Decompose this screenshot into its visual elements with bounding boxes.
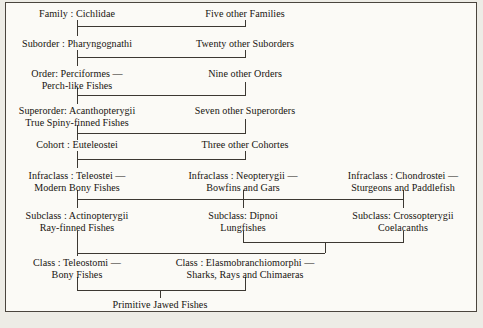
- node-family: Family : Cichlidae: [39, 8, 115, 20]
- node-order: Order: Perciformes — Perch-like Fishes: [31, 68, 122, 91]
- node-cohort-siblings: Three other Cohortes: [202, 139, 289, 151]
- node-class-elasmobranchiomorphi-line2: Sharks, Rays and Chimaeras: [176, 269, 315, 281]
- node-root-line1: Primitive Jawed Fishes: [113, 299, 208, 311]
- node-subclass-crossopterygii-line1: Subclass: Crossopterygii: [352, 210, 453, 222]
- node-suborder-line1: Suborder : Pharyngognathi: [22, 38, 132, 50]
- node-infraclass-neopterygii-line1: Infraclass : Neopterygii —: [188, 170, 297, 182]
- node-order-line2: Perch-like Fishes: [31, 80, 122, 92]
- node-root: Primitive Jawed Fishes: [113, 299, 208, 311]
- node-superorder-line1: Superorder: Acanthopterygii: [19, 105, 136, 117]
- node-cohort: Cohort : Euteleostei: [36, 139, 118, 151]
- node-infraclass-teleostei: Infraclass : Teleostei — Modern Bony Fis…: [28, 170, 125, 193]
- node-subclass-crossopterygii: Subclass: Crossopterygii Coelacanths: [352, 210, 453, 233]
- node-subclass-dipnoi-line2: Lungfishes: [208, 222, 278, 234]
- node-infraclass-teleostei-line2: Modern Bony Fishes: [28, 182, 125, 194]
- node-class-elasmobranchiomorphi-line1: Class : Elasmobranchiomorphi —: [176, 257, 315, 269]
- node-suborder-siblings-line1: Twenty other Suborders: [196, 38, 294, 50]
- node-suborder: Suborder : Pharyngognathi: [22, 38, 132, 50]
- node-infraclass-chondrostei-line1: Infraclass : Chondrostei —: [348, 170, 458, 182]
- node-cohort-siblings-line1: Three other Cohortes: [202, 139, 289, 151]
- node-class-elasmobranchiomorphi: Class : Elasmobranchiomorphi — Sharks, R…: [176, 257, 315, 280]
- node-subclass-actinopterygii: Subclass : Actinopterygii Ray-finned Fis…: [26, 210, 129, 233]
- node-order-siblings-line1: Nine other Orders: [208, 68, 282, 80]
- node-subclass-crossopterygii-line2: Coelacanths: [352, 222, 453, 234]
- node-subclass-dipnoi-line1: Subclass: Dipnoi: [208, 210, 278, 222]
- node-infraclass-chondrostei: Infraclass : Chondrostei — Sturgeons and…: [348, 170, 458, 193]
- node-subclass-actinopterygii-line2: Ray-finned Fishes: [26, 222, 129, 234]
- node-subclass-dipnoi: Subclass: Dipnoi Lungfishes: [208, 210, 278, 233]
- node-family-siblings-line1: Five other Families: [205, 8, 284, 20]
- node-class-teleostomi-line1: Class : Teleostomi —: [33, 257, 121, 269]
- node-infraclass-neopterygii: Infraclass : Neopterygii — Bowfins and G…: [188, 170, 297, 193]
- node-superorder-siblings: Seven other Superorders: [195, 105, 295, 117]
- node-subclass-actinopterygii-line1: Subclass : Actinopterygii: [26, 210, 129, 222]
- node-order-siblings: Nine other Orders: [208, 68, 282, 80]
- node-class-teleostomi-line2: Bony Fishes: [33, 269, 121, 281]
- node-family-siblings: Five other Families: [205, 8, 284, 20]
- node-class-teleostomi: Class : Teleostomi — Bony Fishes: [33, 257, 121, 280]
- node-infraclass-teleostei-line1: Infraclass : Teleostei —: [28, 170, 125, 182]
- node-superorder: Superorder: Acanthopterygii True Spiny-f…: [19, 105, 136, 128]
- node-suborder-siblings: Twenty other Suborders: [196, 38, 294, 50]
- node-superorder-siblings-line1: Seven other Superorders: [195, 105, 295, 117]
- node-infraclass-chondrostei-line2: Sturgeons and Paddlefish: [348, 182, 458, 194]
- node-infraclass-neopterygii-line2: Bowfins and Gars: [188, 182, 297, 194]
- node-family-line1: Family : Cichlidae: [39, 8, 115, 20]
- node-order-line1: Order: Perciformes —: [31, 68, 122, 80]
- node-superorder-line2: True Spiny-finned Fishes: [19, 117, 136, 129]
- taxonomy-diagram: Family : Cichlidae Five other Families S…: [0, 0, 483, 328]
- node-cohort-line1: Cohort : Euteleostei: [36, 139, 118, 151]
